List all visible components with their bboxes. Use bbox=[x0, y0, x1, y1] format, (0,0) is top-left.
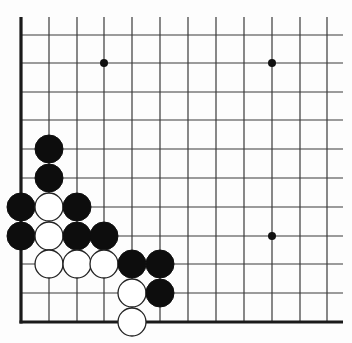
black-stone[interactable] bbox=[63, 222, 91, 250]
star-point-icon bbox=[268, 232, 276, 240]
go-board bbox=[0, 0, 352, 343]
white-stone[interactable] bbox=[35, 222, 63, 250]
white-stone[interactable] bbox=[35, 193, 63, 221]
white-stone[interactable] bbox=[63, 250, 91, 278]
star-point-icon bbox=[100, 59, 108, 67]
white-stone[interactable] bbox=[90, 250, 118, 278]
star-point-icon bbox=[268, 59, 276, 67]
white-stone[interactable] bbox=[118, 279, 146, 307]
black-stone[interactable] bbox=[7, 222, 35, 250]
black-stone[interactable] bbox=[35, 135, 63, 163]
black-stone[interactable] bbox=[7, 193, 35, 221]
black-stone[interactable] bbox=[118, 250, 146, 278]
black-stone[interactable] bbox=[35, 164, 63, 192]
black-stone[interactable] bbox=[63, 193, 91, 221]
black-stone[interactable] bbox=[90, 222, 118, 250]
black-stone[interactable] bbox=[146, 279, 174, 307]
white-stone[interactable] bbox=[35, 250, 63, 278]
black-stone[interactable] bbox=[146, 250, 174, 278]
white-stone[interactable] bbox=[118, 308, 146, 336]
go-board-canvas bbox=[0, 0, 352, 343]
